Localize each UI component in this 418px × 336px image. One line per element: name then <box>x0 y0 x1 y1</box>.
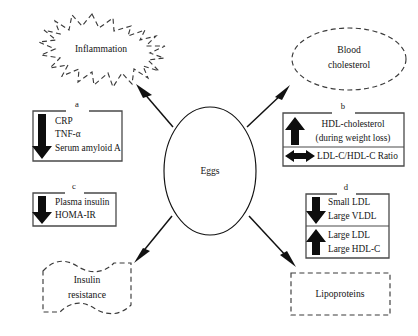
node-lipoproteins: Lipoproteins <box>291 273 390 315</box>
panel-c-line-2: HOMA-IR <box>55 210 97 220</box>
panel-d-line-4: Large HDL-C <box>328 244 380 254</box>
panel-b-line-2: (during weight loss) <box>316 133 391 144</box>
node-lipoproteins-label: Lipoproteins <box>315 288 364 299</box>
connector-eggs-to-inflammation <box>136 84 173 127</box>
panel-d: d Small LDL Large VLDL Large LDL Large H… <box>306 182 389 258</box>
panel-d-line-2: Large VLDL <box>328 211 377 221</box>
node-blood-cholesterol: Blood cholesterol <box>292 28 406 90</box>
panel-a-letter: a <box>75 99 79 109</box>
node-eggs: Eggs <box>164 107 256 235</box>
connector-eggs-to-insulin-resistance <box>134 216 172 263</box>
node-insulin-resistance: Insulin resistance <box>43 261 131 313</box>
panel-c-line-1: Plasma insulin <box>55 197 110 207</box>
node-inflammation-label: Inflammation <box>75 43 127 54</box>
down-arrow-icon <box>32 196 52 224</box>
banner-shape <box>43 261 131 313</box>
panel-a-line-2: TNF-α <box>55 129 81 139</box>
node-insulin-resistance-label-line1: Insulin <box>74 274 101 285</box>
panel-b-line-1: HDL-cholesterol <box>322 119 385 129</box>
diagram-canvas: Eggs Inflammation Blood cholesterol Insu… <box>0 0 418 336</box>
panel-c: c Plasma insulin HOMA-IR <box>32 181 116 226</box>
panel-b-line-3: LDL-C/HDL-C Ratio <box>317 151 398 161</box>
double-horizontal-arrow-icon <box>285 150 315 162</box>
connector-eggs-to-lipoproteins <box>249 216 296 267</box>
panel-b: b HDL-cholesterol (during weight loss) L… <box>283 101 404 166</box>
node-inflammation: Inflammation <box>39 14 165 87</box>
panel-a: a CRP TNF-α Serum amyloid A <box>32 99 122 161</box>
panel-b-letter: b <box>341 101 345 111</box>
up-arrow-icon <box>306 229 326 255</box>
panel-a-line-1: CRP <box>55 116 73 126</box>
node-eggs-label: Eggs <box>200 165 219 176</box>
panel-a-line-3: Serum amyloid A <box>55 143 121 153</box>
panel-c-letter: c <box>72 181 76 191</box>
down-arrow-icon <box>306 197 326 224</box>
eggs-effects-diagram: Eggs Inflammation Blood cholesterol Insu… <box>0 0 418 336</box>
down-arrow-icon <box>32 114 52 159</box>
panel-d-line-3: Large LDL <box>328 230 370 240</box>
node-blood-cholesterol-label-line1: Blood <box>337 44 361 55</box>
up-arrow-icon <box>285 117 305 145</box>
node-blood-cholesterol-label-line2: cholesterol <box>328 59 370 70</box>
panel-d-letter: d <box>344 182 349 192</box>
node-insulin-resistance-label-line2: resistance <box>68 289 106 300</box>
panel-d-line-1: Small LDL <box>328 197 370 207</box>
